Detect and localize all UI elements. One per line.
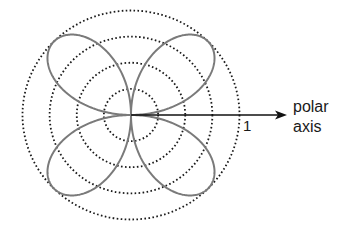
polar-axis-label-line2: axis (293, 118, 321, 135)
radius-tick-label: 1 (243, 117, 251, 134)
polar-rose-diagram: 1 polar axis (0, 0, 345, 231)
polar-axis-label-line1: polar (293, 98, 329, 115)
